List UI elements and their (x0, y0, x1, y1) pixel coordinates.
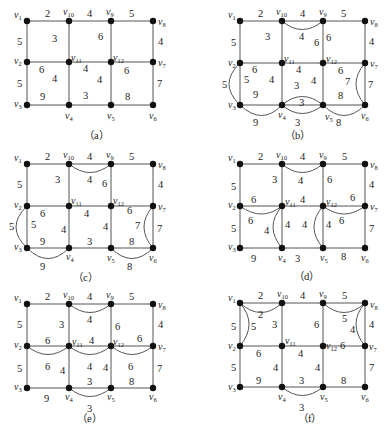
label-v9: v9 (319, 6, 327, 18)
label-v5: v5 (107, 252, 115, 264)
weight: 9 (253, 117, 258, 128)
caption-e: （e） (77, 413, 102, 424)
label-v1: v1 (14, 292, 22, 304)
caption-d: （d） (294, 271, 319, 282)
node-v2 (24, 203, 30, 209)
label-v10: v10 (63, 6, 74, 18)
weight: 9 (40, 236, 45, 247)
node-v5 (108, 102, 114, 108)
weight: 9 (44, 393, 49, 404)
node-v9 (320, 161, 326, 167)
weight: 4 (103, 362, 109, 373)
weight: 7 (368, 79, 373, 90)
weight: 6 (248, 215, 253, 226)
weight: 3 (52, 33, 57, 44)
weight: 4 (264, 225, 270, 236)
label-v12: v12 (113, 336, 124, 348)
weight: 4 (87, 291, 93, 302)
weight: 6 (256, 348, 261, 359)
panel-a-weights: 2 4 5 5 4 3 6 6 4 6 5 4 9 4 3 8 7 (17, 8, 164, 102)
label-v2: v2 (228, 199, 236, 211)
weight: 5 (231, 321, 236, 332)
weight: 7 (157, 363, 162, 374)
weight: 6 (45, 361, 50, 372)
weight: 6 (127, 205, 132, 216)
panel-c: v1 v10 v9 v8 v2 v11 v12 v7 v3 v4 v5 v6 2… (9, 149, 166, 283)
weight: 9 (40, 261, 45, 272)
weight: 4 (369, 36, 375, 47)
node-v10 (279, 18, 285, 24)
node-v8 (362, 300, 368, 306)
weight: 3 (295, 253, 300, 264)
weight: 4 (87, 314, 93, 325)
weight: 5 (17, 179, 22, 190)
node-v1 (24, 18, 30, 24)
node-v8 (362, 18, 368, 24)
label-v2: v2 (228, 340, 236, 352)
weight: 4 (298, 348, 304, 359)
node-v7 (362, 203, 368, 209)
weight: 6 (326, 32, 331, 43)
weight: 5 (17, 363, 22, 374)
weight: 4 (87, 361, 93, 372)
weight: 5 (129, 151, 134, 162)
label-v10: v10 (63, 289, 74, 301)
panel-d-weights: 2 4 5 5 3 4 6 4 6 4 6 6 6 5 4 4 4 4 7 9 … (231, 151, 375, 264)
label-v8: v8 (370, 16, 378, 28)
label-v3: v3 (14, 381, 22, 393)
label-v7: v7 (369, 341, 377, 353)
node-v5 (320, 102, 326, 108)
weight: 4 (285, 219, 291, 230)
weight: 5 (231, 362, 236, 373)
label-v6: v6 (149, 110, 157, 122)
label-v4: v4 (65, 391, 73, 403)
label-v12: v12 (113, 52, 124, 64)
label-v11: v11 (284, 53, 295, 65)
weight: 3 (59, 319, 64, 330)
label-v3: v3 (14, 98, 22, 110)
label-v7: v7 (158, 57, 166, 69)
label-v5: v5 (320, 252, 328, 264)
node-v4 (279, 384, 285, 390)
label-v8: v8 (158, 16, 166, 28)
weight: 5 (231, 181, 236, 192)
label-v9: v9 (106, 289, 114, 301)
node-v6 (362, 384, 368, 390)
weight: 3 (294, 80, 299, 91)
weight: 4 (302, 219, 308, 230)
weight: 2 (45, 151, 50, 162)
label-v12: v12 (326, 196, 337, 208)
weight: 4 (103, 221, 109, 232)
weight: 5 (17, 319, 22, 330)
weight: 3 (299, 402, 304, 413)
weight: 5 (251, 321, 256, 332)
weight: 5 (129, 8, 134, 19)
panel-f: v1 v10 v9 v8 v2 v11 v12 v7 v3 v4 v5 v6 2… (228, 288, 378, 424)
label-v4: v4 (65, 110, 73, 122)
label-v4: v4 (66, 251, 74, 263)
node-v1 (24, 301, 30, 307)
weight: 5 (222, 79, 227, 90)
caption-f: （f） (298, 413, 322, 424)
node-v6 (362, 102, 368, 108)
weight: 3 (299, 375, 304, 386)
weight: 7 (369, 223, 374, 234)
label-v1: v1 (14, 9, 22, 21)
caption-b: （b） (285, 130, 310, 141)
weight: 8 (129, 376, 134, 387)
panel-f-weights: 2 4 5 2 5 5 3 6 5 4 4 6 4 6 5 4 4 7 9 3 … (231, 290, 375, 413)
node-v8 (150, 301, 156, 307)
label-v6: v6 (149, 391, 157, 403)
label-v11: v11 (71, 195, 82, 207)
weight: 8 (336, 117, 341, 128)
node-v7 (150, 59, 156, 65)
node-v2 (24, 343, 30, 349)
node-v5 (108, 245, 114, 251)
weight: 5 (342, 290, 347, 301)
weight: 7 (369, 362, 374, 373)
label-v6: v6 (361, 252, 369, 264)
weight: 4 (60, 365, 66, 376)
node-v6 (150, 245, 156, 251)
caption-a: （a） (84, 130, 109, 141)
node-v8 (150, 161, 156, 167)
